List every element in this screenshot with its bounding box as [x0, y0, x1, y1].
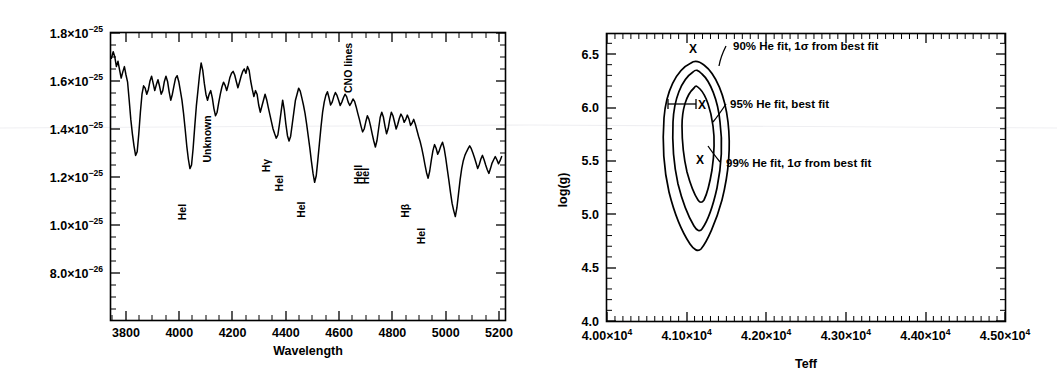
spectrum-svg: 1.8×10−251.6×10−251.4×10−251.2×10−251.0×…	[0, 0, 530, 382]
leader-line-90	[719, 46, 726, 66]
spectral-line-label: CNO lines	[342, 43, 354, 93]
y-axis-tick-labels: 4.04.55.05.56.06.5	[582, 48, 599, 329]
y-tick-label: 4.0	[582, 315, 599, 329]
scan-artifact-line	[530, 125, 1057, 128]
annotation-90-percent: 90% He fit, 1σ from best fit	[733, 40, 878, 52]
y-tick-label: 6.5	[582, 48, 599, 62]
y-tick-label: 5.0	[582, 208, 599, 222]
x-axis-tick-labels: 4.00×1044.10×1044.20×1044.30×1044.40×104…	[582, 327, 1031, 344]
y-axis-tick-labels: 1.8×10−251.6×10−251.4×10−251.2×10−251.0×…	[50, 24, 103, 281]
y-tick-label: 1.0×10−25	[50, 216, 103, 233]
spectrum-curve	[111, 52, 501, 217]
panel-contour: X X X 90% He fit, 1σ from best fit 95% H…	[530, 0, 1057, 382]
y-tick-label: 1.8×10−25	[50, 24, 103, 41]
y-axis-right-major-ticks	[996, 54, 1006, 321]
y-axis-right-minor-ticks	[1000, 43, 1006, 310]
x-tick-label: 4.10×104	[661, 327, 712, 344]
spectral-line-label: HeI	[359, 168, 371, 184]
x-tick-label: 4200	[219, 326, 247, 340]
spectral-line-label: Hγ	[260, 159, 272, 173]
contour-svg: X X X 90% He fit, 1σ from best fit 95% H…	[530, 0, 1057, 382]
figure-container: 1.8×10−251.6×10−251.4×10−251.2×10−251.0×…	[0, 0, 1057, 382]
best-fit-error-bar	[668, 99, 696, 109]
plot-frame	[111, 33, 506, 321]
x-axis-top-minor-ticks	[615, 34, 997, 40]
x-tick-label: 4600	[325, 326, 353, 340]
y-tick-label: 4.5	[582, 261, 599, 275]
x-tick-label: 4.50×104	[980, 327, 1031, 344]
x-tick-label: 4.00×104	[582, 327, 633, 344]
spectral-line-labels: HeIUnknownHγHeIHeICNO linesHeIIHeIHβHeI	[176, 43, 427, 245]
y-tick-label: 1.4×10−25	[50, 120, 103, 137]
annotation-95-percent: 95% He fit, best fit	[730, 98, 829, 110]
x-tick-label: 4000	[165, 326, 193, 340]
x-axis-minor-ticks	[112, 315, 486, 321]
x-tick-label: 5200	[485, 326, 513, 340]
x-axis-tick-labels: 38004000420044004600480050005200	[112, 326, 513, 340]
y-tick-label: 6.0	[582, 101, 599, 115]
x-tick-label: 4.40×104	[900, 327, 951, 344]
annotation-99-percent: 99% He fit, 1σ from best fit	[726, 157, 871, 169]
panel-spectrum: 1.8×10−251.6×10−251.4×10−251.2×10−251.0×…	[0, 0, 530, 382]
y-axis-major-ticks	[607, 54, 617, 321]
y-axis-title: log(g)	[556, 173, 570, 208]
x-axis-title: Wavelength	[273, 344, 343, 358]
x-axis-top-minor-ticks	[139, 33, 486, 39]
x-tick-label: 5000	[432, 326, 460, 340]
spectral-line-label: HeI	[273, 175, 285, 191]
spectral-line-label: Hβ	[399, 203, 411, 218]
x-tick-label: 4.20×104	[741, 327, 792, 344]
y-tick-label: 1.6×10−25	[50, 72, 103, 89]
y-tick-label: 5.5	[582, 154, 599, 168]
spectral-line-label: HeI	[295, 201, 307, 217]
x-tick-label: 4400	[272, 326, 300, 340]
spectral-line-label: Unknown	[201, 115, 213, 162]
x-axis-title: Teff	[795, 357, 818, 371]
spectral-line-label: HeI	[415, 228, 427, 244]
x-tick-label: 4800	[379, 326, 407, 340]
y-tick-label: 1.2×10−25	[50, 168, 103, 185]
marker-x-90-percent: X	[689, 42, 697, 56]
x-axis-minor-ticks	[615, 316, 997, 322]
spectral-line-label: HeI	[176, 204, 188, 220]
x-tick-label: 4.30×104	[821, 327, 872, 344]
x-tick-label: 3800	[112, 326, 140, 340]
y-axis-minor-ticks	[607, 43, 613, 310]
y-tick-label: 8.0×10−26	[50, 264, 103, 281]
marker-x-99-percent: X	[696, 153, 704, 167]
marker-x-95-percent: X	[698, 98, 706, 112]
